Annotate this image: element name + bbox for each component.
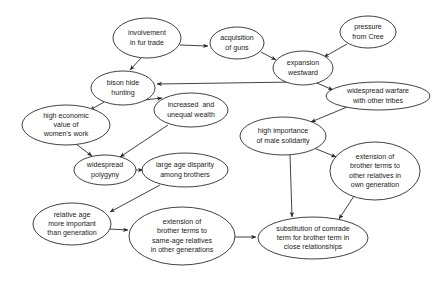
node-label: high importanceof male solidarity bbox=[256, 127, 310, 144]
node-label: increased andunequal wealth bbox=[167, 101, 215, 118]
node-label-line: among brothers bbox=[160, 170, 210, 178]
node-label-line: in other generations bbox=[151, 246, 214, 254]
diagram-node[interactable]: involvementin fur trade bbox=[113, 18, 181, 58]
edge-arrow bbox=[311, 107, 347, 122]
edge-arrow bbox=[324, 44, 347, 57]
edge-arrow bbox=[76, 144, 92, 156]
edge-arrow bbox=[261, 52, 276, 60]
node-label-line: extension of bbox=[356, 153, 394, 161]
node-label-line: unequal wealth bbox=[167, 110, 215, 118]
node-label: relative agemore importantthan generatio… bbox=[47, 211, 96, 237]
node-label-line: value of bbox=[54, 121, 79, 129]
node-label-line: large age disparity bbox=[156, 161, 214, 169]
diagram-node[interactable]: substitution of comradeterm for brother … bbox=[258, 217, 368, 259]
node-label-line: same-age relatives bbox=[152, 236, 212, 244]
diagram-node[interactable]: relative agemore importantthan generatio… bbox=[33, 203, 111, 245]
node-label-line: high economic bbox=[43, 112, 89, 120]
node-label: expansionwestward bbox=[287, 59, 319, 76]
edge-arrow bbox=[157, 82, 296, 84]
node-label-line: own generation bbox=[351, 181, 400, 189]
edge-arrow bbox=[314, 148, 336, 157]
node-label-line: of guns bbox=[225, 43, 249, 51]
node-label: extension ofbrother terms toother relati… bbox=[349, 153, 401, 189]
diagram-node[interactable]: extension ofbrother terms toother relati… bbox=[330, 142, 420, 200]
node-label-line: brother terms to bbox=[157, 227, 207, 235]
node-label-line: acquisition bbox=[220, 34, 254, 42]
edge-arrow bbox=[110, 185, 160, 212]
edge-arrow bbox=[109, 229, 128, 230]
causal-flow-diagram: involvementin fur tradeacquisitionof gun… bbox=[0, 0, 442, 284]
node-label: involvementin fur trade bbox=[128, 29, 166, 46]
diagram-node[interactable]: pressurefrom Cree bbox=[340, 16, 396, 48]
diagram-node[interactable]: large age disparityamong brothers bbox=[142, 153, 228, 187]
node-label-line: than generation bbox=[47, 229, 96, 237]
node-label-line: hunting bbox=[111, 88, 134, 96]
diagram-node[interactable]: high economicvalue ofwomen's work bbox=[22, 105, 110, 145]
node-label-line: bison hide bbox=[107, 79, 139, 87]
node-label-line: with other tribes bbox=[352, 96, 404, 104]
diagram-node[interactable]: extension ofbrother terms tosame-age rel… bbox=[129, 207, 235, 265]
diagram-canvas: involvementin fur tradeacquisitionof gun… bbox=[0, 0, 442, 284]
node-label-line: brother terms to bbox=[350, 162, 400, 170]
diagram-node[interactable]: bison hidehunting bbox=[91, 71, 155, 105]
edge-arrow bbox=[339, 196, 354, 219]
node-label-line: from Cree bbox=[352, 32, 384, 40]
node-label: pressurefrom Cree bbox=[352, 23, 384, 40]
diagram-node[interactable]: expansionwestward bbox=[273, 51, 333, 85]
node-label-line: of male solidarity bbox=[256, 136, 310, 144]
node-label: bison hidehunting bbox=[107, 79, 139, 96]
node-label-line: widespread bbox=[86, 161, 123, 169]
edge-arrow bbox=[317, 83, 333, 90]
node-label-line: expansion bbox=[287, 59, 319, 67]
node-label-line: term for brother term in bbox=[277, 234, 350, 242]
node-label-line: involvement bbox=[128, 29, 166, 37]
diagram-node[interactable]: increased andunequal wealth bbox=[154, 93, 228, 127]
node-label: large age disparityamong brothers bbox=[156, 161, 214, 178]
edge-arrow bbox=[120, 125, 168, 157]
nodes-layer: involvementin fur tradeacquisitionof gun… bbox=[22, 16, 430, 265]
diagram-node[interactable]: acquisitionof guns bbox=[210, 27, 264, 59]
node-label-line: widespread warfare bbox=[346, 87, 409, 95]
node-label: widespread warfarewith other tribes bbox=[346, 87, 409, 104]
node-label-line: more important bbox=[48, 220, 96, 228]
node-label-line: increased and bbox=[168, 101, 215, 109]
edge-arrow bbox=[180, 45, 208, 46]
node-label-line: in fur trade bbox=[130, 38, 164, 46]
node-label-line: substitution of comrade bbox=[276, 225, 349, 233]
node-label: widespreadpolygyny bbox=[86, 161, 123, 178]
node-label-line: high importance bbox=[258, 127, 309, 135]
diagram-node[interactable]: widespread warfarewith other tribes bbox=[326, 82, 430, 110]
edge-arrow bbox=[290, 155, 292, 217]
node-label-line: women's work bbox=[43, 130, 89, 138]
node-label-line: close relationships bbox=[284, 243, 343, 251]
diagram-node[interactable]: widespreadpolygyny bbox=[74, 155, 136, 185]
node-label-line: other relatives in bbox=[349, 171, 401, 179]
node-label-line: polygyny bbox=[91, 170, 119, 178]
node-label-line: relative age bbox=[54, 211, 91, 219]
node-label-line: pressure bbox=[354, 23, 382, 31]
node-label-line: westward bbox=[287, 68, 318, 76]
node-label-line: extension of bbox=[163, 218, 201, 226]
diagram-node[interactable]: high importanceof male solidarity bbox=[240, 117, 326, 155]
node-label: substitution of comradeterm for brother … bbox=[276, 225, 349, 251]
edge-arrow bbox=[130, 58, 141, 70]
